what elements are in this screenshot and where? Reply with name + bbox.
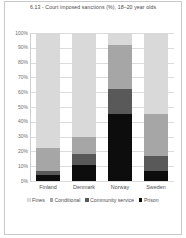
bar-segment: [36, 33, 60, 148]
x-axis-tick-label: Finland: [30, 184, 66, 190]
bar-segment: [36, 171, 60, 175]
bar-segment: [36, 175, 60, 181]
legend-item: Community service: [85, 197, 134, 203]
legend-item: Conditional: [50, 197, 81, 203]
y-axis-tick-label: 80%: [2, 60, 28, 65]
legend-label: Fines: [32, 197, 45, 203]
x-axis-tick-label: Sweden: [138, 184, 174, 190]
plot-bars: [30, 33, 174, 181]
bar-segment: [108, 45, 132, 89]
x-axis-tick-label: Denmark: [66, 184, 102, 190]
bar-segment: [144, 156, 168, 171]
bar-segment: [72, 137, 96, 155]
bar-segment: [144, 33, 168, 114]
legend-item: Fines: [27, 197, 44, 203]
legend-item: Prison: [139, 197, 158, 203]
bar-segment: [36, 148, 60, 170]
x-axis-tick-label: Norway: [102, 184, 138, 190]
y-axis-tick-label: 70%: [2, 75, 28, 80]
chart-legend: FinesConditionalCommunity servicePrison: [0, 197, 186, 203]
y-axis-tick-label: 50%: [2, 105, 28, 110]
bar-segment: [72, 33, 96, 137]
y-axis-tick-label: 100%: [2, 31, 28, 36]
bar-segment: [108, 89, 132, 114]
legend-swatch-icon: [139, 198, 142, 201]
bar-segment: [144, 171, 168, 181]
legend-label: Prison: [144, 197, 159, 203]
y-axis-tick-label: 0%: [2, 179, 28, 184]
y-axis-tick-label: 60%: [2, 90, 28, 95]
bar-segment: [108, 114, 132, 181]
y-axis-tick-label: 40%: [2, 119, 28, 124]
y-axis-tick-label: 90%: [2, 45, 28, 50]
y-axis-tick-label: 20%: [2, 149, 28, 154]
y-axis-tick-label: 30%: [2, 134, 28, 139]
bar-segment: [108, 33, 132, 45]
y-axis-tick-label: 10%: [2, 164, 28, 169]
bar-segment: [72, 154, 96, 164]
y-axis-tick-labels: 0%10%20%30%40%50%60%70%80%90%100%: [0, 33, 28, 181]
chart-title: 6.13 - Court imposed sanctions (%), 18–2…: [0, 4, 186, 11]
bar-segment: [72, 165, 96, 181]
legend-swatch-icon: [27, 198, 30, 201]
bar-column: [144, 33, 168, 181]
legend-swatch-icon: [85, 198, 88, 201]
legend-swatch-icon: [50, 198, 53, 201]
bar-column: [72, 33, 96, 181]
legend-label: Community service: [90, 197, 134, 203]
bar-column: [36, 33, 60, 181]
legend-label: Conditional: [54, 197, 80, 203]
figure-container: 6.13 - Court imposed sanctions (%), 18–2…: [0, 0, 186, 238]
gridline: [30, 181, 174, 182]
bar-segment: [144, 114, 168, 155]
bar-column: [108, 33, 132, 181]
